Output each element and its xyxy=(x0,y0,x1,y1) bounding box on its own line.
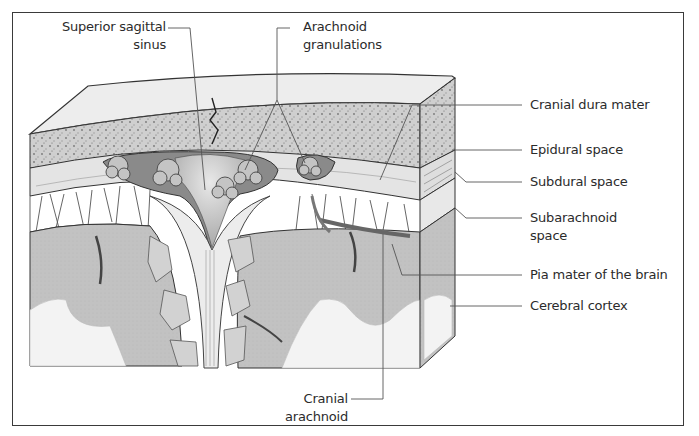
label-cranial-arachnoid: Cranial arachnoid xyxy=(270,390,348,426)
label-subarachnoid-space: Subarachnoid space xyxy=(530,209,617,245)
label-subarachnoid-space-line1: Subarachnoid xyxy=(530,209,617,227)
label-superior-sagittal-sinus-line2: sinus xyxy=(38,36,166,54)
label-arachnoid-granulations-line2: granulations xyxy=(303,36,382,54)
label-cerebral-cortex: Cerebral cortex xyxy=(530,297,627,315)
label-superior-sagittal-sinus: Superior sagittal sinus xyxy=(38,18,166,54)
label-cranial-arachnoid-line1: Cranial xyxy=(270,390,348,408)
label-arachnoid-granulations-line1: Arachnoid xyxy=(303,18,382,36)
label-epidural-space: Epidural space xyxy=(530,141,623,159)
label-superior-sagittal-sinus-line1: Superior sagittal xyxy=(38,18,166,36)
label-subdural-space: Subdural space xyxy=(530,173,628,191)
label-pia-mater: Pia mater of the brain xyxy=(530,266,668,284)
label-cranial-dura-mater: Cranial dura mater xyxy=(530,96,649,114)
label-arachnoid-granulations: Arachnoid granulations xyxy=(303,18,382,54)
label-cranial-arachnoid-line2: arachnoid xyxy=(270,408,348,426)
label-subarachnoid-space-line2: space xyxy=(530,227,617,245)
